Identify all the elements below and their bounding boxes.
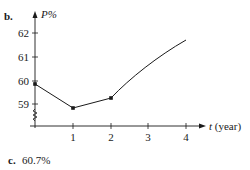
y-axis-label: P% [40,8,57,20]
data-point [33,82,37,86]
data-points [33,82,113,110]
part-c-label: c. [8,154,16,166]
x-axis-label: t (year) [209,120,241,133]
x-tick-4: 4 [183,131,189,143]
x-tick-2: 2 [108,131,114,143]
y-tick-60: 60 [18,75,30,87]
x-tick-1: 1 [70,131,76,143]
chart: P% 62 61 60 59 t (year) 1 2 3 4 [0,0,250,170]
y-axis-arrow-icon [33,11,38,18]
data-curve [111,40,186,98]
data-line-segments [35,84,111,108]
data-point [109,96,113,100]
y-tick-61: 61 [18,51,29,63]
data-point [71,106,75,110]
part-c-answer: 60.7% [22,154,50,166]
y-tick-62: 62 [18,27,29,39]
x-tick-3: 3 [145,131,151,143]
x-axis-arrow-icon [199,124,206,129]
y-tick-59: 59 [18,98,30,110]
